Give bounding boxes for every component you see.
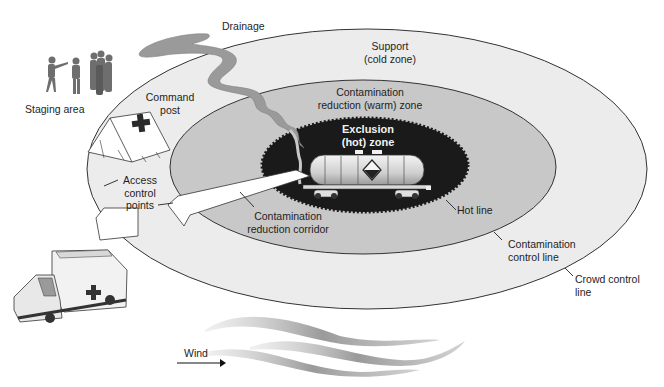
exclusion-zone-label: Exclusion (hot) zone [330, 123, 406, 149]
drainage-label: Drainage [222, 20, 265, 33]
ambulance-icon [14, 250, 127, 323]
hot-line-label: Hot line [457, 204, 493, 217]
wind-streaks [205, 317, 465, 377]
warm-zone-label: Contamination reduction (warm) zone [310, 86, 430, 111]
wind-label: Wind [184, 347, 208, 360]
access-control-points-label: Access control points [118, 174, 162, 212]
decon-corridor-label: Contamination reduction corridor [240, 210, 336, 235]
support-zone-label: Support (cold zone) [350, 40, 430, 65]
access-control-box [96, 208, 138, 240]
command-post-label: Command post [140, 91, 200, 116]
crowd-control-line-label: Crowd control line [575, 273, 640, 298]
staging-area-people-icon [46, 51, 113, 96]
staging-area-label: Staging area [25, 103, 85, 116]
contamination-control-line-label: Contamination control line [508, 238, 576, 263]
hazmat-zone-diagram: Drainage Support (cold zone) Staging are… [0, 0, 664, 387]
